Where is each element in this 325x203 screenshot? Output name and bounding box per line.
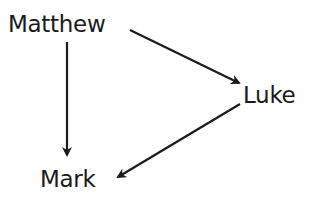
edge-luke-to-mark-arrow-icon [118, 104, 240, 177]
edge-matthew-to-luke-arrow-icon [130, 30, 239, 83]
edges-layer [0, 0, 325, 203]
